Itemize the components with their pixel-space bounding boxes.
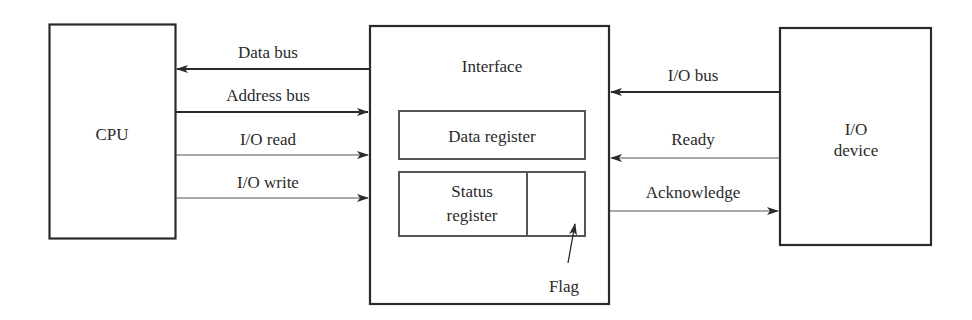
interface-label: Interface	[462, 57, 522, 76]
signal-data-bus: Data bus	[177, 43, 370, 69]
data-register-label: Data register	[448, 127, 536, 146]
io-device-label-line1: I/O	[845, 120, 868, 139]
data-bus-label: Data bus	[238, 43, 298, 62]
address-bus-label: Address bus	[226, 86, 310, 105]
io-bus-label: I/O bus	[668, 66, 719, 85]
cpu-block: CPU	[50, 25, 176, 239]
signal-io-read: I/O read	[176, 130, 368, 155]
status-register: Status register	[399, 172, 585, 236]
io-device-block: I/O device	[780, 28, 931, 245]
io-interface-diagram: CPU Interface Data register Status regis…	[0, 0, 972, 320]
data-register: Data register	[399, 111, 585, 159]
signal-io-write: I/O write	[176, 173, 368, 198]
acknowledge-label: Acknowledge	[646, 183, 740, 202]
signal-acknowledge: Acknowledge	[610, 183, 778, 211]
ready-label: Ready	[671, 130, 715, 149]
status-register-label-line2: register	[447, 206, 498, 225]
io-device-label-line2: device	[834, 141, 878, 160]
flag-label: Flag	[549, 277, 580, 296]
cpu-label: CPU	[95, 125, 128, 144]
signal-io-bus: I/O bus	[611, 66, 780, 92]
io-write-label: I/O write	[237, 173, 299, 192]
signal-ready: Ready	[611, 130, 780, 158]
interface-block: Interface Data register Status register …	[370, 26, 609, 304]
io-read-label: I/O read	[240, 130, 297, 149]
signal-address-bus: Address bus	[176, 86, 368, 112]
status-register-label-line1: Status	[451, 182, 493, 201]
